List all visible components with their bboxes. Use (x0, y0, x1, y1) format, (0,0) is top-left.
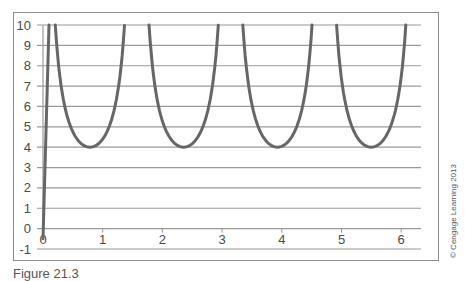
y-tick-label: 3 (24, 160, 31, 175)
x-tick-label: 4 (278, 232, 285, 247)
y-tick-label: 1 (24, 201, 31, 216)
figure-caption: Figure 21.3 (13, 266, 79, 281)
y-tick-label: 10 (17, 18, 31, 33)
series-line (43, 25, 49, 239)
x-tick-label: 1 (99, 232, 106, 247)
y-tick-label: 0 (24, 221, 31, 236)
y-tick-label: 5 (24, 119, 31, 134)
y-tick-label: 6 (24, 99, 31, 114)
y-tick-label: -1 (19, 242, 31, 257)
copyright-notice: © Cengage Learning 2013 (449, 164, 458, 258)
y-tick-label: 9 (24, 38, 31, 53)
y-tick-label: 8 (24, 58, 31, 73)
x-tick-label: 6 (398, 232, 405, 247)
gridlines (37, 25, 421, 249)
y-tick-label: 7 (24, 79, 31, 94)
x-tick-label: 2 (159, 232, 166, 247)
x-tick-label: 5 (338, 232, 345, 247)
y-tick-label: 4 (24, 140, 31, 155)
x-axis: 0123456 (39, 25, 404, 247)
y-tick-label: 2 (24, 180, 31, 195)
data-series (43, 25, 406, 239)
x-tick-label: 3 (218, 232, 225, 247)
y-axis-labels: -1012345678910 (17, 18, 31, 257)
